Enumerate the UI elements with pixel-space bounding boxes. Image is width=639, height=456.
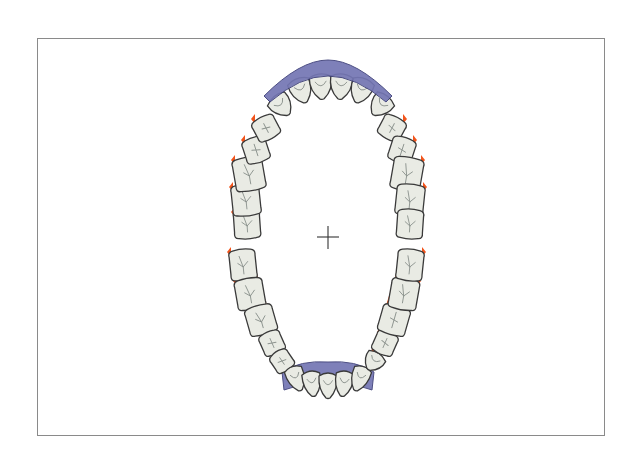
tooth-crown xyxy=(319,373,337,399)
dental-chart xyxy=(0,0,639,456)
crosshair-icon xyxy=(317,226,339,249)
teeth-layer xyxy=(228,73,426,398)
tooth-ul8[interactable] xyxy=(396,208,424,240)
tooth-crown xyxy=(395,248,425,283)
tooth-lr1[interactable] xyxy=(319,373,337,399)
tooth-ll7[interactable] xyxy=(395,248,425,283)
tooth-crown xyxy=(396,208,424,240)
